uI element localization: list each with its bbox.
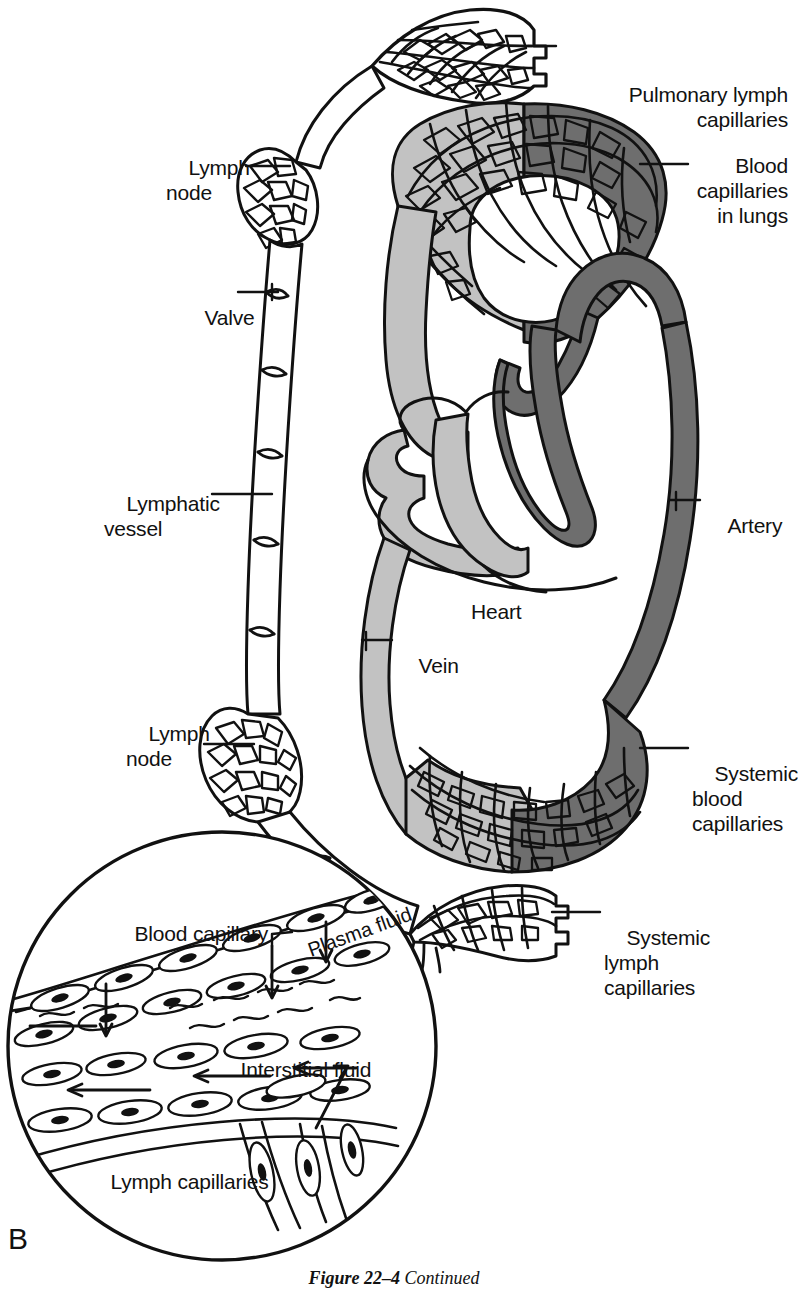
label-lymph-capillaries-text: Lymph capillaries bbox=[111, 1170, 269, 1193]
label-systemic-lymph-capillaries: Systemic lymph capillaries bbox=[604, 900, 788, 1025]
label-lymph-node-bottom: Lymph node bbox=[126, 696, 216, 796]
label-lymph-node-top-text: Lymph node bbox=[166, 156, 250, 204]
label-systemic-blood-capillaries-text: Systemic blood capillaries bbox=[692, 762, 798, 835]
label-lymph-node-bottom-text: Lymph node bbox=[126, 722, 210, 770]
label-blood-capillaries-in-lungs-text: Blood capillaries in lungs bbox=[697, 154, 788, 227]
label-valve: Valve bbox=[182, 280, 252, 355]
figure-caption-number: Figure 22–4 bbox=[308, 1268, 400, 1288]
figure-caption-continued: Continued bbox=[400, 1268, 480, 1288]
label-lymph-node-top: Lymph node bbox=[166, 130, 256, 230]
systemic-artery bbox=[604, 322, 698, 718]
label-pulmonary-lymph-capillaries-line1: Pulmonary lymph capillaries bbox=[562, 82, 788, 132]
label-lymph-capillaries: Lymph capillaries bbox=[88, 1144, 328, 1219]
lymphatic-trunk-upper bbox=[296, 66, 384, 168]
label-valve-text: Valve bbox=[205, 306, 255, 329]
label-interstitial-fluid: Interstitial fluid bbox=[218, 1032, 438, 1107]
panel-letter-b: B bbox=[8, 1222, 28, 1256]
lymphatic-vessel-trunk bbox=[247, 240, 303, 714]
label-artery: Artery bbox=[706, 488, 786, 563]
label-heart-text: Heart bbox=[471, 600, 521, 623]
label-vein-text: Vein bbox=[419, 654, 459, 677]
label-lymphatic-vessel: Lymphatic vessel bbox=[104, 466, 224, 566]
label-blood-capillary-text: Blood capillary bbox=[135, 922, 269, 945]
label-systemic-blood-capillaries: Systemic blood capillaries bbox=[692, 736, 788, 861]
label-systemic-lymph-capillaries-text: Systemic lymph capillaries bbox=[604, 926, 710, 999]
figure-caption: Figure 22–4 Continued bbox=[0, 1268, 788, 1289]
label-lymphatic-vessel-text: Lymphatic vessel bbox=[104, 492, 220, 540]
label-plasma-fluid-text: Plasma fluid bbox=[305, 903, 415, 961]
label-artery-text: Artery bbox=[727, 514, 782, 537]
label-vein: Vein bbox=[396, 628, 466, 703]
label-interstitial-fluid-text: Interstitial fluid bbox=[241, 1058, 372, 1081]
label-blood-capillaries-in-lungs: Blood capillaries in lungs bbox=[570, 128, 788, 253]
